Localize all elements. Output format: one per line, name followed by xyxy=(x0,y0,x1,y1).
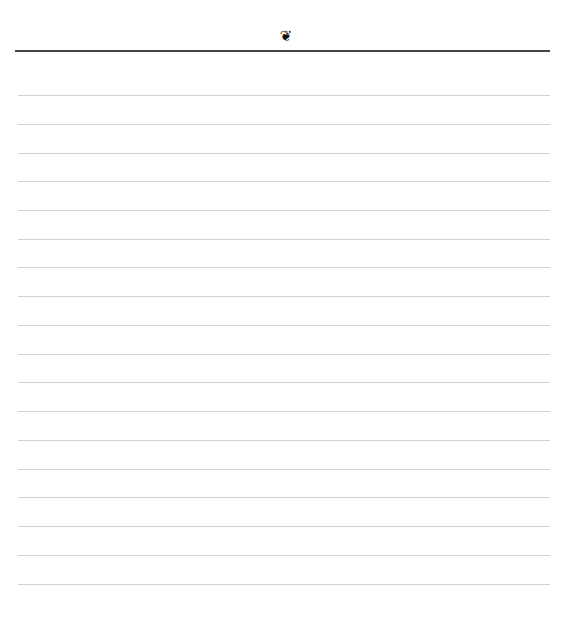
ruled-line xyxy=(18,354,550,355)
header-divider xyxy=(15,50,550,52)
lined-page: ❦ xyxy=(0,0,572,639)
ruled-line xyxy=(18,210,550,211)
ruled-line xyxy=(18,469,550,470)
ruled-line xyxy=(18,382,550,383)
ruled-line xyxy=(18,267,550,268)
ruled-line xyxy=(18,296,550,297)
ruled-line xyxy=(18,325,550,326)
ruled-line xyxy=(18,584,550,585)
ruled-line xyxy=(18,153,550,154)
ruled-line xyxy=(18,411,550,412)
ruled-line xyxy=(18,124,550,125)
ruled-line xyxy=(18,440,550,441)
ruled-line xyxy=(18,526,550,527)
ruled-line xyxy=(18,181,550,182)
floral-heart-ornament-icon: ❦ xyxy=(0,27,572,45)
ruled-line xyxy=(18,497,550,498)
ruled-line xyxy=(18,95,550,96)
ruled-line xyxy=(18,239,550,240)
ruled-line xyxy=(18,555,550,556)
